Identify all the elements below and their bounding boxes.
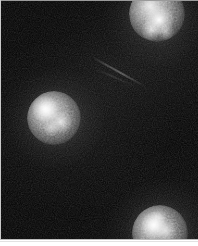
sphere-hotspot	[145, 6, 173, 34]
sphere-speckle-texture	[132, 205, 188, 240]
frame-edge-left	[0, 0, 1, 240]
footer-rule	[0, 241, 198, 242]
sphere-hotspot	[50, 111, 72, 133]
sphere-halo	[95, 0, 198, 76]
sphere-speckle-texture	[27, 91, 81, 145]
sphere-fill	[132, 205, 188, 240]
background-haze-upper	[30, 0, 190, 140]
sphere-left	[27, 91, 81, 145]
sphere-hotspot	[43, 120, 59, 136]
background-haze-top-right	[80, 0, 198, 140]
sphere-halo	[98, 171, 198, 240]
sphere-fill	[129, 0, 185, 42]
sphere-top-right	[129, 0, 185, 42]
sphere-body	[27, 91, 81, 145]
sphere-body	[129, 0, 185, 42]
background-haze-bottom-right	[85, 150, 198, 240]
sphere-hotspot	[156, 221, 176, 240]
sphere-hotspot	[150, 209, 166, 225]
sphere-speckle-texture	[129, 0, 185, 42]
image-frame	[0, 0, 198, 240]
sphere-body	[132, 205, 188, 240]
screenshot-root	[0, 0, 198, 246]
sphere-hotspot	[158, 24, 174, 40]
sphere-halo	[0, 59, 113, 178]
sphere-hotspot	[32, 96, 58, 122]
diagonal-filament-icon	[92, 56, 147, 88]
sphere-bottom-right	[132, 205, 188, 240]
sensor-grain-texture	[0, 0, 198, 240]
sphere-hotspot	[141, 212, 167, 238]
frame-edge-top	[0, 0, 198, 1]
sphere-fill	[27, 91, 81, 145]
sphere-hotspot	[141, 20, 161, 40]
background-haze-left	[0, 40, 170, 210]
diagonal-filament-secondary	[96, 68, 137, 87]
